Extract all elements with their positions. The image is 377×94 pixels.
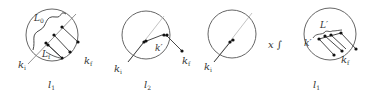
operator-x-integral: x ∫ bbox=[268, 39, 282, 50]
vertex-dot bbox=[60, 56, 63, 59]
label-kprime: k′ bbox=[304, 38, 312, 48]
vertex-dot bbox=[52, 33, 55, 36]
vertex-dot bbox=[76, 40, 79, 43]
vertex-dot bbox=[162, 33, 165, 36]
panel-1: L0 Lf ki kf l1 bbox=[18, 9, 93, 91]
vertex-dot bbox=[339, 31, 342, 34]
label-Lf: Lf bbox=[41, 49, 51, 60]
label-L0: L0 bbox=[33, 13, 44, 24]
vertex-dot bbox=[323, 34, 326, 37]
vertex-dot bbox=[228, 40, 231, 43]
panel-2: k′ ki kf l2 bbox=[114, 11, 191, 91]
rung bbox=[54, 35, 70, 52]
label-kf: kf bbox=[182, 55, 191, 67]
vertex-dot bbox=[354, 47, 357, 50]
rung bbox=[62, 27, 78, 42]
vertex-dot bbox=[329, 33, 332, 36]
label-ki: ki bbox=[114, 63, 122, 75]
vertex-dot bbox=[332, 53, 335, 56]
vertex-dot bbox=[144, 39, 147, 42]
vertex-dot bbox=[68, 50, 71, 53]
feynman-diagram-figure: L0 Lf ki kf l1 k′ ki kf l2 ki x ∫ bbox=[0, 0, 377, 94]
label-ki: ki bbox=[18, 59, 26, 71]
vertex-dot bbox=[46, 43, 49, 46]
vertex-dot bbox=[180, 49, 183, 52]
path-line bbox=[144, 35, 182, 51]
panel-label: l1 bbox=[48, 79, 55, 91]
vertex-dot bbox=[231, 38, 234, 41]
vertex-dot bbox=[60, 25, 63, 28]
vertex-dot bbox=[317, 37, 320, 40]
vertex-dot bbox=[340, 49, 343, 52]
rung bbox=[331, 35, 346, 49]
label-kf: kf bbox=[341, 54, 350, 66]
label-Lprime: L′ bbox=[319, 20, 328, 30]
vertex-dot bbox=[165, 33, 168, 36]
panel-label: l2 bbox=[144, 79, 151, 91]
label-kprime: k′ bbox=[155, 43, 163, 53]
panel-label: l1 bbox=[313, 79, 320, 91]
panel-3: ki x ∫ bbox=[204, 10, 282, 73]
label-kf: kf bbox=[84, 55, 93, 67]
label-ki: ki bbox=[204, 61, 212, 73]
panel-4: L′ k′ kf l1 bbox=[304, 8, 358, 91]
